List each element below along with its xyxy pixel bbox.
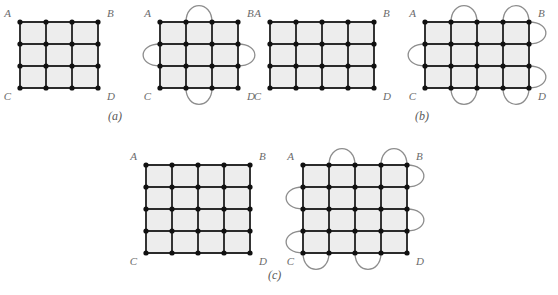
vertex (43, 19, 48, 24)
vertex (293, 85, 298, 90)
vertex (209, 63, 214, 68)
grid-cell (303, 165, 329, 187)
grid-cell (329, 209, 355, 231)
grid-cell (198, 209, 224, 231)
vertex (448, 19, 453, 24)
corner-label-c: C (254, 90, 262, 102)
vertex (352, 228, 357, 233)
grid-cell (160, 66, 186, 88)
graph-panel-b-left: ABCD (253, 7, 391, 102)
arc-edge-bottom (303, 253, 329, 269)
vertex (69, 85, 74, 90)
vertex (326, 250, 331, 255)
grid-cell (477, 66, 503, 88)
vertex (378, 162, 383, 167)
vertex (267, 85, 272, 90)
vertex (195, 250, 200, 255)
corner-label-c: C (4, 90, 12, 102)
vertex (95, 63, 100, 68)
cell-fills (160, 22, 238, 88)
grid-cell (355, 209, 381, 231)
grid-cell (451, 22, 477, 44)
vertex (221, 250, 226, 255)
grid-cell (348, 66, 374, 88)
vertex (500, 19, 505, 24)
vertex (378, 206, 383, 211)
vertex (326, 184, 331, 189)
grid-cell (72, 66, 98, 88)
grid-cell (296, 22, 322, 44)
corner-label-d: D (415, 255, 424, 267)
grid-cell (451, 44, 477, 66)
vertex (448, 63, 453, 68)
grid-cell (303, 187, 329, 209)
vertex (157, 41, 162, 46)
vertex (422, 19, 427, 24)
vertex (95, 41, 100, 46)
grid-cell (451, 66, 477, 88)
vertex (474, 85, 479, 90)
vertex (404, 184, 409, 189)
vertex (17, 63, 22, 68)
corner-label-c: C (287, 255, 295, 267)
grid-cell (270, 22, 296, 44)
vertex (43, 85, 48, 90)
vertex (43, 63, 48, 68)
grid-cell (355, 187, 381, 209)
grid-cell (186, 66, 212, 88)
grid-cell (270, 44, 296, 66)
grid-cell (212, 22, 238, 44)
vertex (371, 41, 376, 46)
grid-cell (425, 44, 451, 66)
vertex (404, 250, 409, 255)
vertex (221, 206, 226, 211)
vertex (422, 41, 427, 46)
grid-cell (425, 22, 451, 44)
grid-cell (212, 44, 238, 66)
corner-label-b: B (107, 7, 114, 19)
vertex (157, 85, 162, 90)
graph-panel-b-right: ABCD (408, 6, 546, 105)
corner-label-b: B (383, 7, 390, 19)
grid-cell (146, 231, 172, 253)
grid-cell (146, 209, 172, 231)
grid-cell (224, 165, 250, 187)
grid-cell (296, 66, 322, 88)
grid-cell (503, 66, 529, 88)
cell-fills (20, 22, 98, 88)
vertex (195, 162, 200, 167)
vertex (526, 19, 531, 24)
vertex (352, 184, 357, 189)
vertex (293, 41, 298, 46)
vertex (195, 184, 200, 189)
grid-cell (381, 187, 407, 209)
grid-cell (477, 22, 503, 44)
grid-cell (329, 187, 355, 209)
grid-cell (355, 165, 381, 187)
grid-cell (46, 66, 72, 88)
corner-label-c: C (409, 90, 417, 102)
vertex (209, 19, 214, 24)
arc-edge-bottom (451, 88, 477, 104)
vertex (95, 19, 100, 24)
grid-cell (72, 22, 98, 44)
vertex (247, 184, 252, 189)
grid-cell (503, 44, 529, 66)
vertex (195, 206, 200, 211)
vertex (371, 85, 376, 90)
arc-edge-bottom (503, 88, 529, 104)
vertex (474, 41, 479, 46)
grid-cell (296, 44, 322, 66)
vertex (300, 184, 305, 189)
grid-cell (72, 44, 98, 66)
vertex (526, 85, 531, 90)
vertex (235, 41, 240, 46)
grid-cell (322, 22, 348, 44)
grid-cell (46, 22, 72, 44)
grid-cell (160, 44, 186, 66)
grid-cell (20, 44, 46, 66)
graph-panel-a-left: ABCD (3, 7, 115, 102)
vertex (143, 184, 148, 189)
corner-label-a: A (286, 150, 294, 162)
vertex (157, 19, 162, 24)
